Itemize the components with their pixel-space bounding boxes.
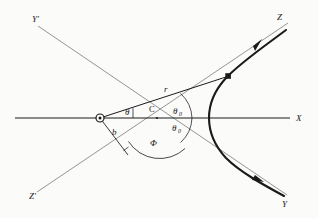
label-phi: Φ	[150, 138, 157, 148]
construction-lines	[37, 23, 288, 195]
label-theta: θ	[125, 107, 130, 117]
trajectory-arrowheads	[252, 39, 264, 182]
orbit-point-square-icon	[225, 73, 231, 79]
asymptote-zprime-to-z	[37, 23, 288, 192]
axis-label-y-prime: Y'	[32, 14, 40, 24]
label-theta-zero-upper-subscript: 0	[179, 111, 182, 117]
label-impact-parameter-b: b	[112, 127, 117, 137]
hyperbolic-trajectory-path	[209, 30, 286, 196]
axis-label-z-prime: Z'	[29, 191, 37, 201]
theta-zero-lower-arc	[181, 118, 193, 143]
label-radius-r: r	[164, 84, 168, 94]
hyperbolic-trajectory-group	[209, 30, 286, 196]
axis-label-y: Y	[282, 199, 288, 209]
label-theta-zero-lower-group: θ 0	[172, 123, 181, 134]
theta-zero-upper-arc	[181, 93, 193, 118]
orbit-point-marker-group	[225, 73, 231, 79]
center-point-dot-icon	[156, 117, 158, 119]
focus-center-dot-icon	[99, 117, 102, 120]
label-theta-zero-upper: θ	[173, 106, 178, 116]
focus-marker-group	[96, 114, 104, 122]
label-theta-zero-lower-subscript: 0	[178, 128, 181, 134]
axis-label-x: X	[295, 113, 302, 123]
scattering-diagram-figure: X Y' Z' Z Y C r b θ θ 0 θ 0 Φ	[0, 0, 318, 218]
scattering-diagram-svg: X Y' Z' Z Y C r b θ θ 0 θ 0 Φ	[0, 0, 318, 218]
label-center-c: C	[149, 104, 155, 114]
center-marker-group	[156, 117, 158, 119]
axis-label-z: Z	[277, 12, 283, 22]
asymptote-yprime-to-y	[38, 26, 287, 195]
label-theta-zero-lower: θ	[172, 123, 177, 133]
label-theta-zero-upper-group: θ 0	[173, 106, 182, 117]
right-angle-tick	[124, 147, 129, 151]
